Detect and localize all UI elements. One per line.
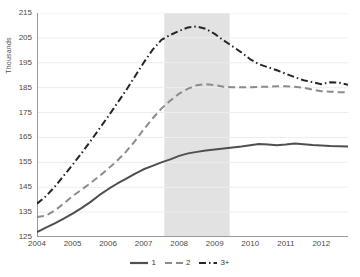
legend-swatch-icon xyxy=(199,259,217,267)
x-tick-label: 2011 xyxy=(266,240,306,248)
y-tick-label: 215 xyxy=(0,9,32,17)
legend-entry-2[interactable]: 2 xyxy=(165,259,190,267)
x-tick-label: 2006 xyxy=(88,240,128,248)
x-tick-label: 2010 xyxy=(230,240,270,248)
y-tick-label: 165 xyxy=(0,133,32,141)
recession-band xyxy=(164,13,229,237)
y-tick-label: 155 xyxy=(0,158,32,166)
y-tick-label: 185 xyxy=(0,84,32,92)
legend-label: 1 xyxy=(151,259,155,267)
legend-entry-3plus[interactable]: 3+ xyxy=(199,259,229,267)
y-tick-label: 205 xyxy=(0,34,32,42)
x-tick-label: 2008 xyxy=(159,240,199,248)
legend-entry-1[interactable]: 1 xyxy=(130,259,155,267)
x-tick-label: 2009 xyxy=(195,240,235,248)
legend-label: 2 xyxy=(186,259,190,267)
y-tick-label: 175 xyxy=(0,109,32,117)
x-tick-label: 2004 xyxy=(17,240,57,248)
line-chart: Thousands 125135145155165175185195205215… xyxy=(0,0,360,277)
legend-label: 3+ xyxy=(220,259,229,267)
chart-legend: 123+ xyxy=(0,259,360,267)
y-tick-label: 145 xyxy=(0,183,32,191)
legend-swatch-icon xyxy=(130,259,148,267)
x-tick-label: 2005 xyxy=(53,240,93,248)
x-tick-label: 2007 xyxy=(124,240,164,248)
y-tick-label: 135 xyxy=(0,208,32,216)
y-tick-label: 195 xyxy=(0,59,32,67)
legend-swatch-icon xyxy=(165,259,183,267)
x-tick-label: 2012 xyxy=(301,240,341,248)
plot-svg xyxy=(37,13,348,237)
plot-area xyxy=(37,13,348,237)
